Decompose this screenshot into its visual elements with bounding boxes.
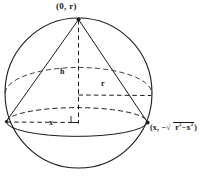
base-right-point-marker: [146, 121, 150, 125]
apex-label: (0, r): [56, 2, 77, 11]
geometry-figure: (0, r) h r x (x, −√r2−x2): [0, 0, 215, 180]
base-left-point-marker: [5, 120, 8, 123]
x-distance-line: [7, 122, 79, 123]
cone-base-back-arc: [6, 108, 147, 123]
base-point-prefix: (x, −: [150, 123, 166, 132]
cone-base-front-arc: [6, 122, 147, 137]
radius-label: r: [101, 80, 105, 88]
base-point-suffix: ): [194, 123, 197, 132]
radical-icon: √: [166, 124, 171, 132]
cone-in-sphere-drawing: [0, 0, 215, 180]
radicand-x-exponent: 2: [191, 122, 194, 127]
height-label: h: [60, 68, 64, 76]
radicand: r2−x2: [173, 122, 194, 132]
x-distance-label: x: [49, 119, 53, 127]
sphere-radius-line: [79, 95, 152, 96]
right-angle-marker: [71, 116, 79, 123]
base-point-label: (x, −√r2−x2): [150, 124, 197, 132]
apex-point-marker: [77, 18, 81, 22]
square-root-expression: √r2−x2: [166, 124, 194, 132]
cone-slant-right: [79, 20, 148, 123]
